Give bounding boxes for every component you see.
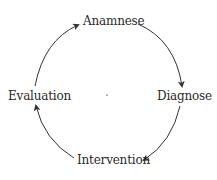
node-diagnose: Diagnose: [157, 89, 212, 103]
arrow-intervention-to-evaluation: [36, 106, 74, 158]
arrow-anamnese-to-diagnose: [138, 24, 182, 86]
process-cycle-diagram: Anamnese Diagnose Intervention Evaluatio…: [0, 0, 217, 180]
node-evaluation: Evaluation: [8, 89, 71, 103]
arrow-evaluation-to-anamnese: [35, 25, 78, 86]
node-intervention: Intervention: [77, 153, 150, 167]
center-dot: ·: [105, 89, 109, 103]
arrow-diagnose-to-intervention: [144, 106, 180, 160]
node-anamnese: Anamnese: [83, 14, 144, 28]
